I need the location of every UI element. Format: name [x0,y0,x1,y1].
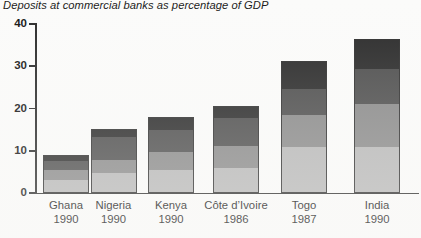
bar-segment [213,118,259,146]
bar-segment [91,160,137,173]
y-axis-tick-label: 20 [1,103,27,115]
y-axis-tick-label: 40 [1,18,27,30]
chart-title: Deposits at commercial banks as percenta… [3,0,268,11]
bar-segment [213,168,259,193]
y-axis-tick [29,23,36,25]
bar-segment [148,152,194,170]
bar-segment [281,115,327,146]
bar-segment [148,170,194,193]
bar-segment [148,130,194,151]
bar-kenya[interactable] [148,117,194,193]
bar-togo[interactable] [281,61,327,193]
bar-c-te-d-ivoire[interactable] [213,106,259,193]
bar-nigeria[interactable] [91,129,137,193]
bar-segment [281,147,327,193]
bar-segment [354,69,400,104]
bar-segment [281,89,327,115]
bar-segment [43,170,89,180]
bar-segment [354,104,400,146]
bar-segment [43,155,89,162]
bar-segment [148,117,194,131]
bar-segment [91,173,137,193]
y-axis-tick-label: 30 [1,60,27,72]
bar-segment [213,146,259,168]
bar-segment [91,137,137,159]
bar-segment [281,61,327,89]
x-axis-label-year: 1990 [327,213,421,227]
bar-segment [43,180,89,193]
bar-segment [43,161,89,169]
x-axis-label: India1990 [327,199,421,226]
y-axis-tick [29,192,36,194]
bar-segment [354,147,400,193]
x-axis-label-country: India [327,199,421,213]
y-axis-tick-label: 0 [1,187,27,199]
chart-container: Deposits at commercial banks as percenta… [0,0,421,238]
y-axis-tick-label: 10 [1,145,27,157]
bar-segment [91,129,137,137]
bar-segment [213,106,259,119]
y-axis-tick [29,108,36,110]
bar-segment [354,39,400,69]
bar-ghana[interactable] [43,155,89,193]
y-axis-tick [29,65,36,67]
y-axis-tick [29,150,36,152]
bar-india[interactable] [354,39,400,193]
